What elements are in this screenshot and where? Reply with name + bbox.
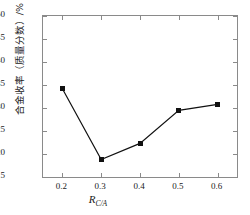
x-axis-title: RC/A [0,193,196,208]
series-line [43,16,237,177]
y-axis-tick-label: 50 [0,10,5,19]
data-point-marker [176,108,181,113]
x-axis-tick-label: 0.5 [163,182,193,191]
x-axis-tick-label: 0.2 [46,182,76,191]
data-point-marker [60,86,65,91]
data-point-marker [215,102,220,107]
y-axis-tick-label: 15 [0,171,5,180]
x-axis-tick-label: 0.3 [85,182,115,191]
data-point-marker [138,141,143,146]
y-axis-tick-label: 35 [0,79,5,88]
y-axis-tick [233,177,237,178]
y-axis-tick [43,177,47,178]
y-axis-tick-label: 30 [0,102,5,111]
x-axis-title-subscript: C/A [96,199,108,208]
y-axis-tick-label: 40 [0,56,5,65]
plot-frame [42,15,238,178]
x-axis-tick-label: 0.4 [124,182,154,191]
x-axis-title-base: R [89,193,96,205]
y-axis-tick-label: 20 [0,148,5,157]
series-polyline [62,89,217,160]
data-point-marker [99,157,104,162]
y-axis-tick-label: 45 [0,33,5,42]
y-axis-title: 合金收率（质量分数）/% [12,0,26,139]
chart-figure: 1520253035404550 0.20.30.40.50.6 合金收率（质量… [0,0,250,215]
plot-area [43,16,237,177]
x-axis-tick-label: 0.6 [202,182,232,191]
y-axis-tick-label: 25 [0,125,5,134]
